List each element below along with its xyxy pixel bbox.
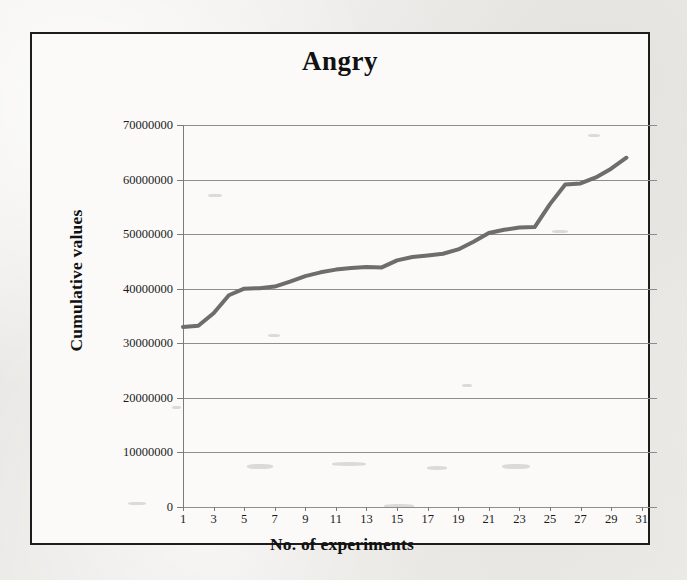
x-axis-tick-label: 23: [504, 513, 534, 526]
y-axis-tick-label: 50000000: [123, 228, 173, 241]
y-axis-tick-label: 0: [167, 501, 173, 514]
x-axis-tick-mark: [336, 507, 337, 511]
x-axis-tick-label: 31: [627, 513, 657, 526]
y-axis-tick-label: 30000000: [123, 337, 173, 350]
y-axis-tick-label: 60000000: [123, 174, 173, 187]
scan-speck: [247, 464, 273, 469]
x-axis-tick-label: 25: [535, 513, 565, 526]
scan-speck: [208, 194, 222, 197]
x-axis-tick-mark: [642, 507, 643, 511]
y-axis-tick-label: 70000000: [123, 119, 173, 132]
y-axis-tick-mark: [177, 289, 184, 290]
x-axis-tick-label: 15: [382, 513, 412, 526]
y-axis-tick-mark: [177, 125, 184, 126]
x-axis-tick-label: 17: [413, 513, 443, 526]
scan-speck: [332, 462, 366, 466]
x-axis-tick-label: 5: [229, 513, 259, 526]
y-axis-tick-mark: [177, 180, 184, 181]
x-axis-tick-label: 13: [351, 513, 381, 526]
scan-speck: [172, 406, 181, 409]
y-axis-tick-label: 20000000: [123, 392, 173, 405]
scan-speck: [268, 334, 280, 337]
x-axis-tick-mark: [305, 507, 306, 511]
y-axis-tick-mark: [177, 452, 184, 453]
x-axis-tick-mark: [550, 507, 551, 511]
y-axis-tick-labels: 7000000060000000500000004000000030000000…: [32, 34, 173, 547]
x-axis-tick-mark: [244, 507, 245, 511]
y-axis-tick-mark: [177, 507, 184, 508]
x-axis-tick-label: 1: [168, 513, 198, 526]
scan-speck: [552, 230, 568, 233]
scan-speck: [462, 384, 472, 387]
x-axis-tick-mark: [519, 507, 520, 511]
x-axis-tick-label: 19: [443, 513, 473, 526]
y-axis-tick-label: 10000000: [123, 446, 173, 459]
scan-speck: [588, 134, 600, 137]
x-axis-tick-mark: [458, 507, 459, 511]
x-axis-tick-label: 7: [260, 513, 290, 526]
x-axis-tick-label: 29: [596, 513, 626, 526]
x-axis-tick-label: 3: [199, 513, 229, 526]
plot-area: [183, 125, 657, 507]
x-axis-tick-mark: [214, 507, 215, 511]
x-axis-tick-mark: [428, 507, 429, 511]
x-axis-tick-label: 21: [474, 513, 504, 526]
scan-speck: [502, 464, 530, 469]
y-axis-tick-label: 40000000: [123, 283, 173, 296]
x-axis-title: No. of experiments: [32, 534, 652, 555]
figure-frame: Angry Cumulative values 7000000060000000…: [30, 32, 650, 545]
x-axis-tick-mark: [581, 507, 582, 511]
gridline: [183, 507, 657, 508]
y-axis-tick-mark: [177, 398, 184, 399]
scan-speck: [128, 502, 146, 505]
y-axis-tick-mark: [177, 343, 184, 344]
x-axis-tick-label: 9: [290, 513, 320, 526]
scan-speck: [427, 466, 447, 470]
y-axis-tick-mark: [177, 234, 184, 235]
x-axis-tick-mark: [611, 507, 612, 511]
x-axis-tick-mark: [366, 507, 367, 511]
data-series-angry: [183, 125, 657, 507]
scan-speck: [384, 504, 414, 508]
x-axis-tick-label: 11: [321, 513, 351, 526]
x-axis-tick-mark: [489, 507, 490, 511]
x-axis-tick-label: 27: [566, 513, 596, 526]
x-axis-tick-mark: [275, 507, 276, 511]
